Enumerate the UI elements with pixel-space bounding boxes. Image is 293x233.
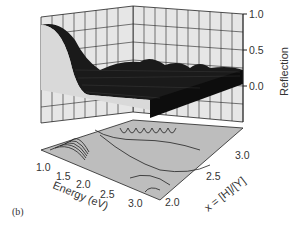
panel-label: (b) xyxy=(12,206,24,218)
y-tick-label: 2.5 xyxy=(206,170,221,182)
y-tick-label: 2.0 xyxy=(165,196,180,208)
z-tick-label: 0.5 xyxy=(249,44,264,56)
z-tick-label: 1.0 xyxy=(249,8,264,20)
z-axis-label: Reflection xyxy=(278,47,290,96)
z-axis: 1.0 0.5 0.0 Reflection xyxy=(243,8,290,122)
x-tick-label: 1.0 xyxy=(36,161,51,173)
y-tick-label: 3.0 xyxy=(235,149,250,161)
reflection-surface-plot: 1.0 0.5 0.0 Reflection 1.0 1.5 2.0 2.5 3… xyxy=(0,0,293,233)
z-tick-label: 0.0 xyxy=(249,80,264,92)
x-tick-label: 3.0 xyxy=(128,197,143,209)
